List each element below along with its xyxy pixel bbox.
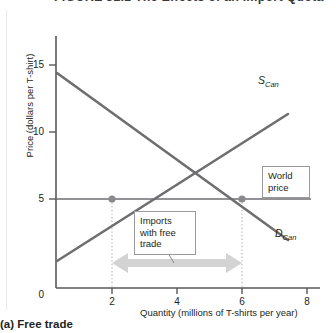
x-axis-title: Quantity (millions of T-shirts per year): [140, 307, 298, 318]
x-tick-label-6: 6: [234, 296, 250, 307]
y-tick-label-0: 0: [26, 289, 44, 300]
y-tick-label-5: 5: [26, 193, 44, 204]
panel-caption: (a) Free trade: [0, 318, 73, 330]
y-tick-label-15: 15: [26, 59, 44, 70]
demand-curve-label-subscript: Can: [283, 233, 297, 242]
imports-callout-line-3: trade: [140, 238, 190, 250]
world-price-callout: World price: [262, 166, 310, 198]
y-axis-title: Price (dollars per T-shirt): [24, 31, 35, 181]
x-tick-label-2: 2: [104, 296, 120, 307]
marker-domestic-supply-point: [108, 195, 115, 202]
demand-curve-label-main: D: [275, 227, 283, 239]
marker-domestic-demand-point: [238, 195, 245, 202]
supply-curve-label: SCan: [258, 74, 279, 89]
y-tick-label-10: 10: [26, 126, 44, 137]
supply-curve-label-main: S: [258, 74, 265, 86]
supply-curve-label-subscript: Can: [265, 80, 279, 89]
x-tick-label-8: 8: [299, 296, 315, 307]
imports-callout: Imports with free trade: [134, 211, 196, 255]
world-price-callout-line-2: price: [268, 182, 304, 194]
world-price-callout-line-1: World: [268, 170, 304, 182]
demand-curve-label: DCan: [275, 227, 296, 242]
imports-callout-line-1: Imports: [140, 215, 190, 227]
imports-span-arrow: [112, 253, 242, 273]
x-tick-label-4: 4: [169, 296, 185, 307]
imports-callout-line-2: with free: [140, 227, 190, 239]
